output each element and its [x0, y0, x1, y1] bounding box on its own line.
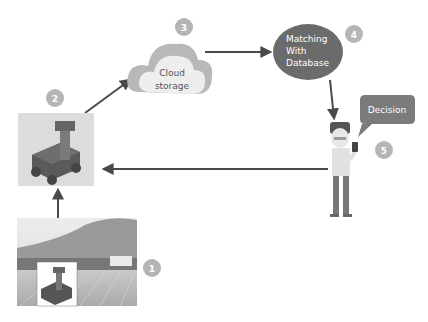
phone-icon: [352, 142, 358, 152]
arrow-4-to-5: [330, 80, 334, 118]
field-photo: [17, 218, 137, 306]
step-number-5: 5: [381, 146, 387, 156]
cloud-label-line-2: storage: [155, 81, 190, 91]
step-number-1: 1: [149, 264, 155, 274]
step-number-2: 2: [52, 94, 58, 104]
db-label-line-3: Database: [286, 58, 329, 68]
decision-label: Decision: [368, 105, 406, 115]
robot-tile: [18, 113, 94, 186]
step-badge-4: 4: [345, 25, 363, 43]
decision-bubble: Decision: [358, 95, 415, 137]
cloud-storage: Cloud storage: [127, 44, 212, 94]
person-with-phone: [330, 122, 358, 217]
matching-database: Matching With Database: [273, 24, 343, 80]
step-badge-2: 2: [46, 89, 64, 107]
step-number-4: 4: [351, 30, 357, 40]
cloud-label-line-1: Cloud: [159, 68, 185, 78]
step-badge-3: 3: [175, 18, 193, 36]
step-number-3: 3: [181, 23, 187, 33]
robot-inset: [37, 262, 77, 306]
arrow-2-to-3: [85, 80, 130, 113]
workflow-diagram: Cloud storage Matching With Database Dec…: [0, 0, 428, 322]
db-label-line-2: With: [286, 46, 306, 56]
db-label-line-1: Matching: [286, 34, 327, 44]
step-badge-5: 5: [375, 141, 393, 159]
step-badge-1: 1: [143, 259, 161, 277]
